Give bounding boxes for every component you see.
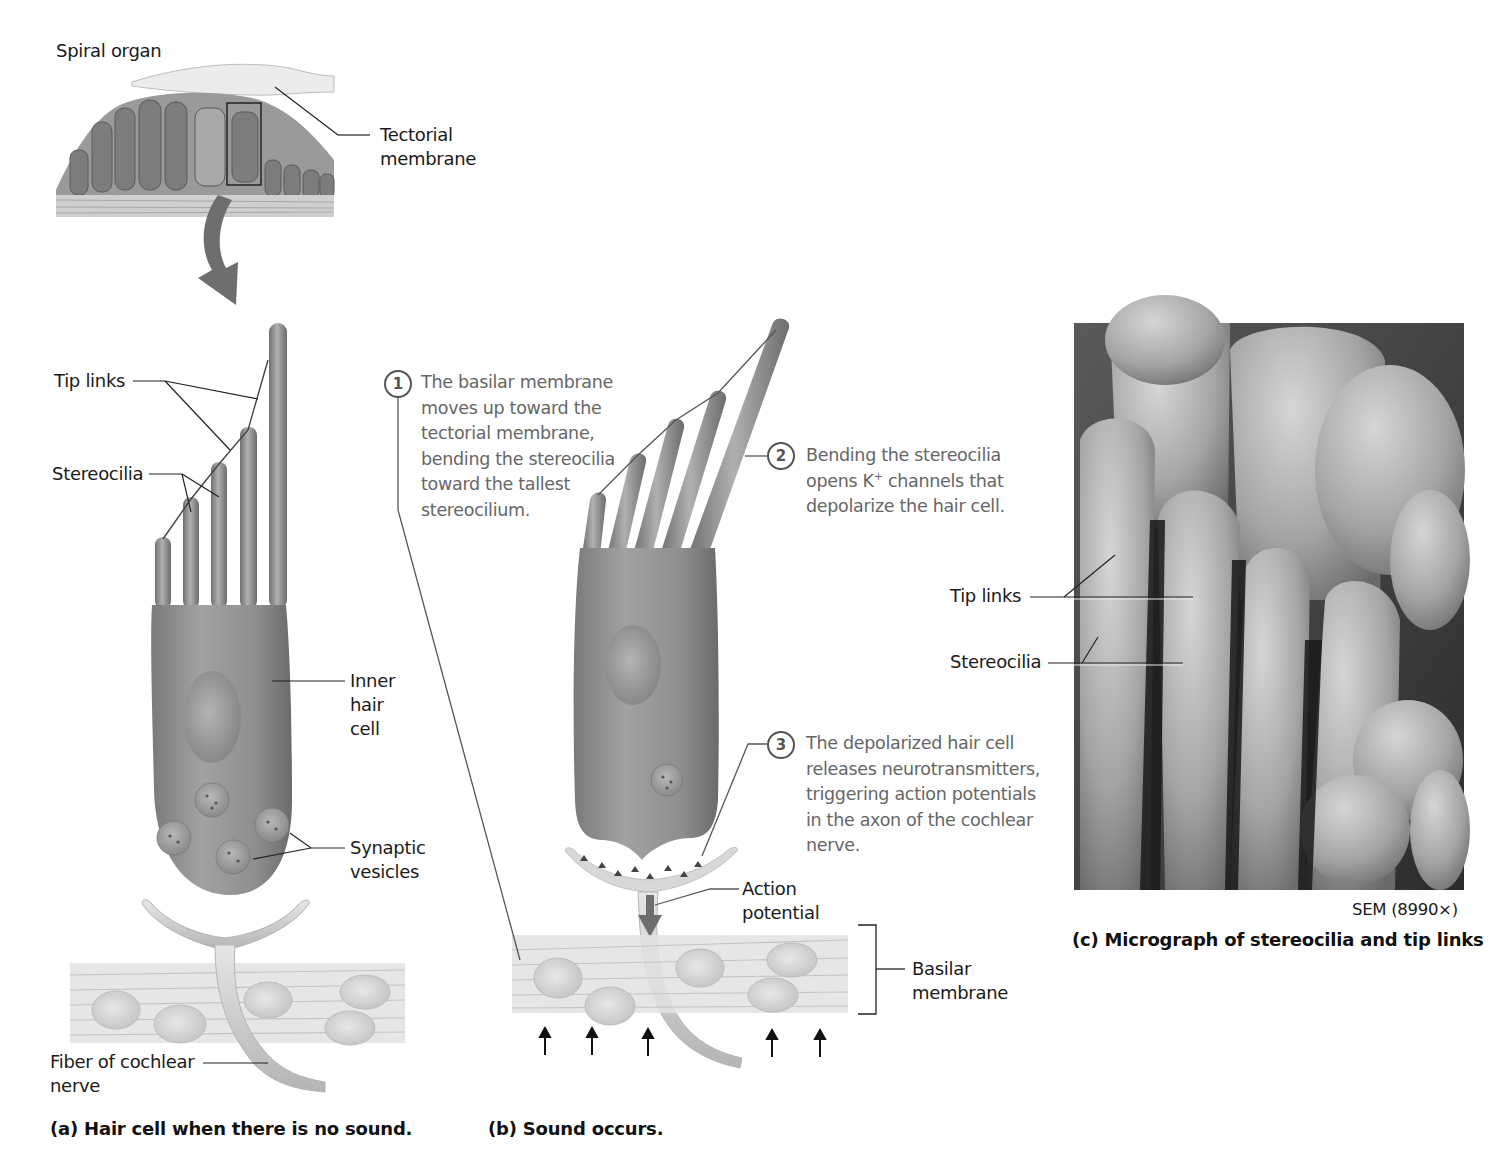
tectorial-membrane-label: Tectorial membrane bbox=[380, 123, 476, 171]
spiral-organ-title: Spiral organ bbox=[56, 39, 161, 63]
inner-hair-cell-line1: Inner bbox=[350, 669, 395, 693]
basilar-line2: membrane bbox=[912, 981, 1008, 1005]
action-potential-line1: Action bbox=[742, 877, 819, 901]
tectorial-label-line1: Tectorial bbox=[380, 123, 476, 147]
step-3-line: triggering action potentials bbox=[806, 782, 1040, 808]
fiber-line2: nerve bbox=[50, 1074, 194, 1098]
potassium-charge-superscript: + bbox=[874, 470, 883, 483]
basilar-line1: Basilar bbox=[912, 957, 1008, 981]
step-1-line: The basilar membrane bbox=[421, 370, 615, 396]
step-1-line: stereocilium. bbox=[421, 498, 615, 524]
step-1-text: The basilar membrane moves up toward the… bbox=[421, 370, 615, 523]
tectorial-label-line2: membrane bbox=[380, 147, 476, 171]
panel-c-caption: (c) Micrograph of stereocilia and tip li… bbox=[1072, 929, 1484, 950]
step-2-line: depolarize the hair cell. bbox=[806, 494, 1005, 520]
step-3-line: in the axon of the cochlear bbox=[806, 808, 1040, 834]
step-2-text: Bending the stereocilia opens K+ channel… bbox=[806, 443, 1005, 520]
step-1-line: tectorial membrane, bbox=[421, 421, 615, 447]
panel-c-stereocilia-label: Stereocilia bbox=[950, 650, 1041, 674]
step-3-line: nerve. bbox=[806, 833, 1040, 859]
action-potential-line2: potential bbox=[742, 901, 819, 925]
step-1-line: toward the tallest bbox=[421, 472, 615, 498]
step-2-line2-post: channels that bbox=[883, 471, 1004, 491]
panel-a-caption: (a) Hair cell when there is no sound. bbox=[50, 1118, 412, 1139]
step-3-badge: 3 bbox=[767, 731, 795, 759]
panel-c-micrograph bbox=[1030, 295, 1470, 890]
diagram-illustration bbox=[0, 0, 1507, 1162]
sem-magnification: SEM (8990×) bbox=[1352, 898, 1458, 922]
synaptic-vesicles-line1: Synaptic bbox=[350, 836, 426, 860]
inner-hair-cell-line3: cell bbox=[350, 717, 395, 741]
synaptic-vesicles-line2: vesicles bbox=[350, 860, 426, 884]
fiber-line1: Fiber of cochlear bbox=[50, 1050, 194, 1074]
step-2-line2-pre: opens K bbox=[806, 471, 874, 491]
step-2-line: Bending the stereocilia bbox=[806, 443, 1005, 469]
panel-c-tip-links-label: Tip links bbox=[950, 584, 1021, 608]
step-1-line: moves up toward the bbox=[421, 396, 615, 422]
basilar-membrane-label: Basilar membrane bbox=[912, 957, 1008, 1005]
step-3-text: The depolarized hair cell releases neuro… bbox=[806, 731, 1040, 859]
step-1-badge: 1 bbox=[384, 370, 412, 398]
synaptic-vesicles-label: Synaptic vesicles bbox=[350, 836, 426, 884]
cochlear-nerve-fiber-label: Fiber of cochlear nerve bbox=[50, 1050, 194, 1098]
panel-b-caption: (b) Sound occurs. bbox=[488, 1118, 663, 1139]
inner-hair-cell-label: Inner hair cell bbox=[350, 669, 395, 741]
panel-a-tip-links-label: Tip links bbox=[54, 369, 125, 393]
panel-a-stereocilia-label: Stereocilia bbox=[52, 462, 143, 486]
step-2-line: opens K+ channels that bbox=[806, 469, 1005, 495]
inner-hair-cell-line2: hair bbox=[350, 693, 395, 717]
step-3-line: The depolarized hair cell bbox=[806, 731, 1040, 757]
spiral-organ-inset bbox=[56, 64, 370, 305]
step-3-line: releases neurotransmitters, bbox=[806, 757, 1040, 783]
action-potential-label: Action potential bbox=[742, 877, 819, 925]
step-1-line: bending the stereocilia bbox=[421, 447, 615, 473]
step-2-badge: 2 bbox=[767, 442, 795, 470]
